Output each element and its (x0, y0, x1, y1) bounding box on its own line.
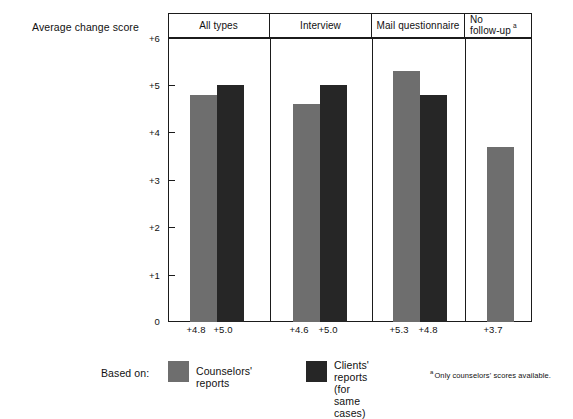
bar-all-types-counselors (190, 95, 217, 322)
legend-swatch-icon (168, 361, 189, 382)
panel-header-label: No follow-up (470, 14, 511, 36)
y-tick-label-0: 0 (132, 316, 160, 327)
y-tick-label-1: +1 (132, 270, 160, 281)
value-label-no-follow-up-counselors: +3.7 (473, 324, 513, 335)
value-label-all-types-clients: +5.0 (203, 324, 243, 335)
panel-header-label: Interview (300, 20, 341, 31)
footnote-marker-icon: a (430, 369, 433, 375)
panel-header-no-follow-up: No follow-upa (465, 13, 532, 37)
panel-header-label: Mail questionnaire (377, 20, 460, 31)
y-tick-label-6: +6 (132, 33, 160, 44)
y-tick-label-5: +5 (132, 80, 160, 91)
value-label-mail-questionnaire-clients: +4.8 (408, 324, 448, 335)
legend-item-label: Counselors' reports (196, 365, 252, 389)
bar-mail-questionnaire-clients (420, 95, 447, 322)
y-tick-label-4: +4 (132, 127, 160, 138)
legend-swatch-icon (306, 361, 327, 382)
footnote-marker-icon: a (513, 20, 517, 31)
chart-legend: Based on: Counselors' reports Clients' r… (0, 358, 573, 398)
bar-no-follow-up-counselors (487, 147, 514, 322)
bar-all-types-clients (217, 85, 244, 322)
bar-mail-questionnaire-counselors (393, 71, 420, 322)
bar-interview-clients (320, 85, 347, 322)
legend-based-on-label: Based on: (101, 367, 149, 379)
legend-item-label: Clients' reports (for same cases) (334, 359, 369, 419)
panel-header-all-types: All types (168, 13, 270, 37)
chart-footnote: aOnly counselors' scores available. (430, 369, 551, 380)
panel-header-label: All types (199, 20, 238, 31)
panel-header-mail-questionnaire: Mail questionnaire (372, 13, 465, 37)
y-tick-label-2: +2 (132, 222, 160, 233)
y-tick-label-3: +3 (132, 175, 160, 186)
page-title: Average change score (32, 21, 139, 33)
panel-header-row: All types Interview Mail questionnaire N… (168, 13, 532, 38)
bars-layer (168, 38, 532, 322)
footnote-text: Only counselors' scores available. (434, 371, 551, 380)
bar-interview-counselors (293, 104, 320, 322)
panel-header-interview: Interview (270, 13, 372, 37)
value-label-interview-clients: +5.0 (308, 324, 348, 335)
